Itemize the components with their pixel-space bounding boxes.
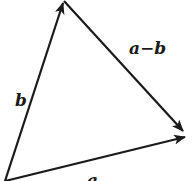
label-b: b — [15, 90, 27, 110]
vector-a-minus-b-arrow — [64, 1, 183, 131]
vector-b-arrow — [5, 3, 63, 181]
vector-triangle-diagram: b a−b a — [0, 0, 194, 181]
label-a: a — [87, 170, 98, 181]
label-a-minus-b: a−b — [129, 38, 166, 58]
